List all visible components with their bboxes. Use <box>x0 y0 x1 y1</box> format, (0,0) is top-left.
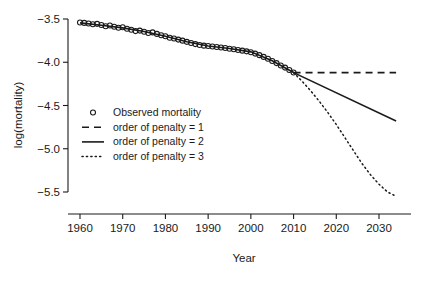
x-axis-title: Year <box>232 252 255 264</box>
y-tick-label: −5.0 <box>37 143 60 155</box>
y-tick-label: −3.5 <box>37 13 60 25</box>
y-tick-label: −5.5 <box>37 186 60 198</box>
chart-background <box>0 0 429 281</box>
y-tick-label: −4.0 <box>37 56 60 68</box>
x-tick-label: 2030 <box>366 222 392 234</box>
x-tick-label: 2020 <box>323 222 349 234</box>
y-tick-label: −4.5 <box>37 100 60 112</box>
mortality-forecast-chart: −3.5−4.0−4.5−5.0−5.5 1960197019801990200… <box>0 0 429 281</box>
x-tick-label: 1980 <box>153 222 179 234</box>
legend-label: order of penalty = 3 <box>113 150 204 162</box>
x-tick-label: 1960 <box>67 222 93 234</box>
y-axis-title: log(mortality) <box>12 82 24 149</box>
x-tick-label: 2010 <box>281 222 307 234</box>
x-tick-label: 1970 <box>110 222 136 234</box>
x-tick-label: 2000 <box>238 222 264 234</box>
x-tick-label: 1990 <box>195 222 221 234</box>
chart-container: −3.5−4.0−4.5−5.0−5.5 1960197019801990200… <box>0 0 429 281</box>
legend-label: order of penalty = 2 <box>113 135 204 147</box>
legend-label: Observed mortality <box>113 106 202 118</box>
legend-label: order of penalty = 1 <box>113 121 204 133</box>
